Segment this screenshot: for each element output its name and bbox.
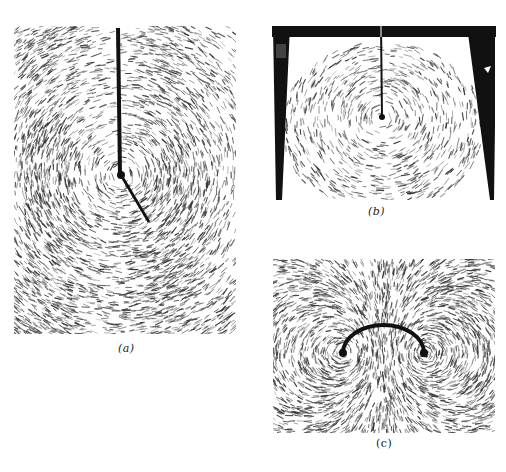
panel-c xyxy=(273,259,495,433)
caption-a: (a) xyxy=(118,342,135,355)
loop-end-left xyxy=(339,349,347,357)
wire-junction xyxy=(117,171,125,179)
suspended-wire xyxy=(381,26,382,117)
panel-b xyxy=(272,26,496,200)
frame-top-bar xyxy=(272,26,496,37)
iron-filings-frame-field xyxy=(272,26,496,200)
loop-end-right xyxy=(420,349,428,357)
iron-filings-circular-field xyxy=(14,26,236,334)
frame-right-leg xyxy=(467,26,495,200)
caption-c: (c) xyxy=(376,437,392,450)
vertical-wire xyxy=(118,28,120,175)
iron-filings-loop-field xyxy=(273,259,495,433)
wire-end xyxy=(379,114,385,120)
caption-b: (b) xyxy=(368,205,385,218)
panel-a xyxy=(14,26,236,334)
